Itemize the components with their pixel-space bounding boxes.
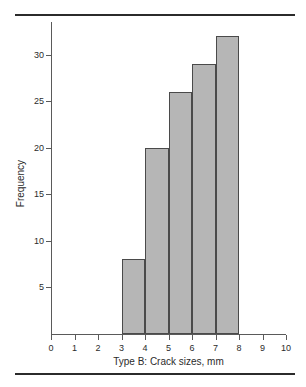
y-tick-mark [46,101,51,102]
x-tick-label: 8 [236,343,241,353]
y-tick-mark [46,194,51,195]
x-tick-mark [286,335,287,340]
x-tick-label: 2 [95,343,100,353]
histogram-bar [145,148,169,334]
x-tick-mark [75,335,76,340]
x-tick-label: 6 [189,343,194,353]
x-tick-label: 5 [166,343,171,353]
y-tick-mark [46,55,51,56]
y-axis-title: Frequency [15,134,26,234]
y-tick-label: 20 [34,143,44,152]
y-tick-label: 30 [34,50,44,59]
x-tick-mark [98,335,99,340]
x-tick-mark [169,335,170,340]
x-tick-mark [192,335,193,340]
y-tick-mark [46,148,51,149]
x-tick-label: 4 [142,343,147,353]
x-tick-mark [239,335,240,340]
x-tick-label: 10 [281,343,291,353]
histogram-bar [169,92,193,334]
y-tick-label: 15 [34,190,44,199]
histogram-figure: 51015202530 012345678910 Frequency Type … [0,0,306,387]
x-tick-mark [216,335,217,340]
x-tick-label: 3 [119,343,124,353]
y-tick-label: 10 [34,236,44,245]
y-axis-line [51,22,52,334]
x-tick-label: 1 [72,343,77,353]
x-tick-label: 9 [260,343,265,353]
bottom-divider-rule [15,373,295,375]
y-tick-label: 5 [39,283,44,292]
histogram-bar [216,36,240,334]
y-tick-mark [46,241,51,242]
x-tick-mark [263,335,264,340]
x-axis-title: Type B: Crack sizes, mm [51,356,286,367]
y-tick-label: 25 [34,97,44,106]
plot-area: 51015202530 012345678910 Frequency Type … [0,0,306,387]
x-tick-mark [145,335,146,340]
y-tick-mark [46,287,51,288]
x-tick-label: 0 [48,343,53,353]
x-tick-mark [122,335,123,340]
x-tick-label: 7 [213,343,218,353]
histogram-bar [192,64,216,334]
x-tick-mark [51,335,52,340]
histogram-bar [122,259,146,334]
